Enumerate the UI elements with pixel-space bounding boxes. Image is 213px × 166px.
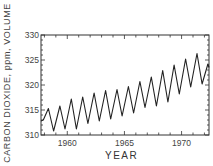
co2-series-line xyxy=(41,54,209,132)
x-tick-label: 1965 xyxy=(115,138,134,148)
x-tick-labels: 196019651970 xyxy=(58,138,191,148)
y-tick-label: 310 xyxy=(25,130,39,140)
axis-ticks xyxy=(41,35,209,135)
y-tick-labels: 310315320325330 xyxy=(25,30,39,140)
y-tick-label: 320 xyxy=(25,80,39,90)
x-axis-label: YEAR xyxy=(105,150,138,161)
y-axis-label-container: CARBON DIOXIDE, ppm, VOLUME xyxy=(0,0,14,166)
y-axis-label: CARBON DIOXIDE, ppm, VOLUME xyxy=(2,3,12,163)
y-tick-label: 325 xyxy=(25,55,39,65)
plot-frame xyxy=(41,35,209,135)
y-tick-label: 330 xyxy=(25,30,39,40)
x-tick-label: 1960 xyxy=(58,138,77,148)
x-tick-label: 1970 xyxy=(172,138,191,148)
y-tick-label: 315 xyxy=(25,105,39,115)
co2-line-chart: 310315320325330 196019651970 xyxy=(0,0,213,166)
